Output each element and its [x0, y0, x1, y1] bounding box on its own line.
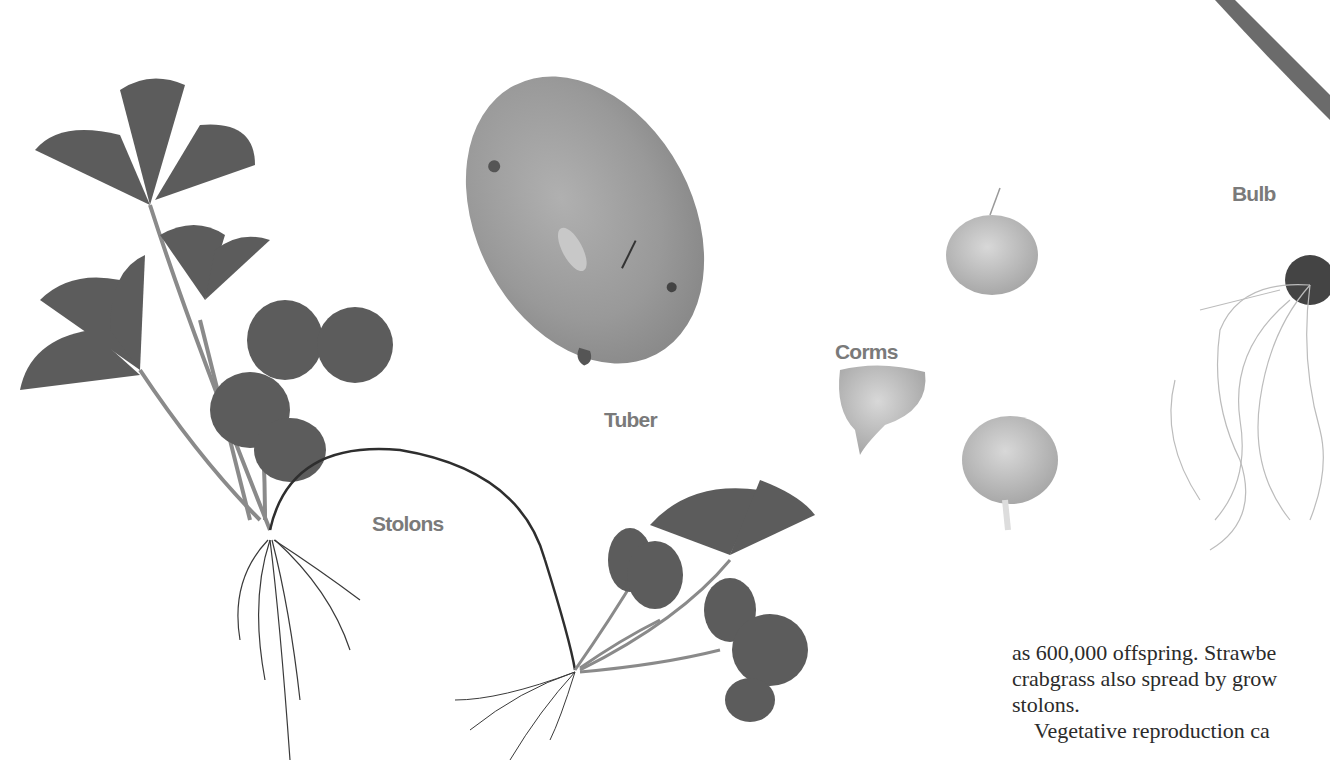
body-text-line: crabgrass also spread by grow [1012, 666, 1330, 692]
strawberry-daughter-plant-icon [455, 480, 815, 760]
potato-tuber-icon [418, 35, 751, 405]
stolon-runner-icon [270, 449, 575, 670]
body-text-line: stolons. [1012, 692, 1330, 718]
body-text-line: as 600,000 offspring. Strawbe [1012, 640, 1330, 666]
body-text: as 600,000 offspring. Strawbe crabgrass … [1012, 640, 1330, 744]
leaf-blade-icon [1215, 0, 1330, 120]
bulb-icon [1171, 255, 1330, 550]
label-tuber: Tuber [604, 408, 657, 432]
body-text-line: Vegetative reproduction ca [1012, 718, 1330, 744]
roots-icon [238, 540, 360, 760]
label-bulb: Bulb [1232, 182, 1275, 206]
label-corms: Corms [835, 340, 898, 364]
label-stolons: Stolons [372, 512, 443, 536]
